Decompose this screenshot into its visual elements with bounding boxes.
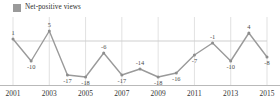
plot-area: 1-105-17-18-6-17-14-18-16-7-1-104-8 — [0, 17, 280, 85]
data-point-marker — [139, 68, 142, 71]
legend-label: Net-positive views — [25, 3, 81, 12]
x-axis-tick-label: 2003 — [42, 89, 57, 98]
data-point-marker — [247, 32, 250, 35]
series-markers — [12, 30, 269, 79]
x-axis-tick-label: 2001 — [5, 89, 20, 98]
data-point-marker — [211, 42, 214, 45]
data-point-label: -16 — [172, 75, 181, 82]
data-point-label: 1 — [11, 29, 14, 36]
data-point-label: -1 — [210, 33, 215, 40]
data-point-marker — [48, 30, 51, 33]
data-point-label: 5 — [48, 21, 51, 28]
x-axis-rule — [0, 85, 280, 86]
data-point-label: -10 — [27, 63, 36, 70]
x-axis-tick-label: 2011 — [187, 89, 202, 98]
data-point-marker — [102, 52, 105, 55]
line-chart-svg: 1-105-17-18-6-17-14-18-16-7-1-104-8 — [0, 17, 280, 85]
x-axis-tick-labels: 20012003200520072009201120132015 — [0, 87, 280, 102]
gridlines — [13, 17, 267, 85]
x-axis-tick-label: 2013 — [223, 89, 238, 98]
x-axis-tick-label: 2009 — [151, 89, 166, 98]
data-point-label: -17 — [63, 77, 72, 84]
x-axis-tick-label: 2015 — [259, 89, 274, 98]
legend-square-icon — [13, 4, 21, 12]
data-point-label: -10 — [226, 63, 235, 70]
chart-legend: Net-positive views — [13, 2, 81, 13]
net-positive-views-chart: Net-positive views 1-105-17-18-6-17-14-1… — [0, 0, 280, 102]
data-point-label: -17 — [118, 77, 127, 84]
x-axis-tick-label: 2007 — [114, 89, 129, 98]
data-point-label: -7 — [192, 57, 198, 64]
data-point-label: -6 — [101, 43, 106, 50]
data-point-label: 4 — [247, 23, 251, 30]
data-point-marker — [12, 38, 15, 41]
data-point-label: -8 — [264, 59, 269, 66]
x-axis-tick-label: 2005 — [78, 89, 93, 98]
data-point-label: -14 — [136, 59, 145, 66]
